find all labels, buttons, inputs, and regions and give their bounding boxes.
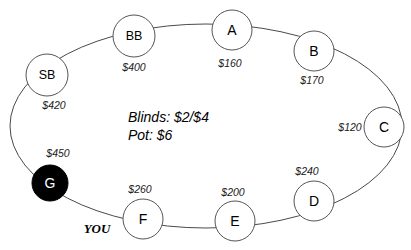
blinds-text: Blinds: $2/$4 [128, 109, 209, 125]
seat-group-d[interactable]: D $240 [294, 165, 334, 221]
seat-label-f: F [139, 211, 148, 227]
seat-group-bb[interactable]: BB $400 [113, 15, 155, 73]
stack-label-d: $240 [294, 165, 319, 177]
stack-label-sb: $420 [41, 99, 66, 111]
seat-group-f[interactable]: F $260 [123, 183, 163, 239]
seat-label-c: C [379, 119, 389, 135]
seat-group-a[interactable]: A $160 [212, 10, 252, 69]
stack-label-bb: $400 [121, 61, 146, 73]
stack-label-e: $200 [220, 186, 245, 198]
seat-group-g[interactable]: G $450 [32, 147, 70, 201]
stack-label-g: $450 [45, 147, 70, 159]
seat-group-c[interactable]: C $120 [337, 107, 404, 147]
seat-label-a: A [227, 22, 237, 38]
seat-label-sb: SB [39, 68, 56, 82]
pot-text: Pot: $6 [128, 127, 173, 143]
seat-label-d: D [309, 193, 319, 209]
you-marker: YOU [84, 221, 111, 236]
poker-table-diagram: BB $400 A $160 B $170 C $120 D $240 E $2… [0, 0, 411, 250]
seat-group-b[interactable]: B $170 [294, 31, 334, 86]
seat-label-g: G [45, 175, 56, 191]
seat-label-bb: BB [126, 29, 143, 43]
stack-label-b: $170 [299, 74, 324, 86]
table-ring-svg: BB $400 A $160 B $170 C $120 D $240 E $2… [0, 0, 411, 250]
stack-label-a: $160 [217, 57, 242, 69]
seat-label-b: B [309, 43, 318, 59]
seat-group-e[interactable]: E $200 [215, 186, 255, 241]
seat-group-sb[interactable]: SB $420 [26, 54, 68, 111]
seat-label-e: E [230, 213, 239, 229]
stack-label-f: $260 [127, 183, 152, 195]
stack-label-c: $120 [337, 121, 362, 133]
